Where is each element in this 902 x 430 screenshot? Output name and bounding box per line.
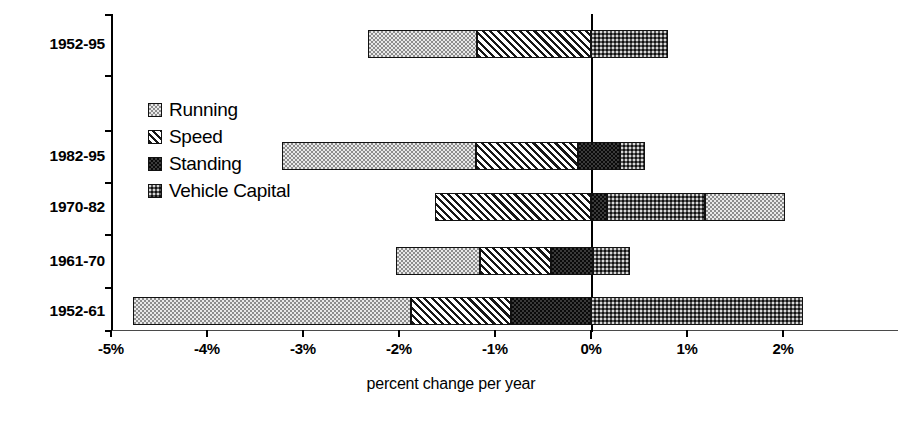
x-tick-label--1pct: -1%	[465, 340, 525, 357]
y-axis-tick	[105, 130, 112, 132]
x-tick-label-1pct: 1%	[657, 340, 717, 357]
legend-item-vehicle-capital[interactable]: Vehicle Capital	[148, 177, 290, 204]
stacked-bar-chart: 1952-951982-951970-821961-701952-61 Runn…	[0, 0, 902, 430]
bar-segment-vehicle-capital-1982-95[interactable]	[620, 142, 645, 170]
legend-swatch-vehicle-capital-icon	[148, 184, 162, 198]
bar-segment-vehicle-capital-1952-61[interactable]	[591, 297, 803, 325]
bar-row-1952-95[interactable]	[0, 30, 902, 58]
legend-swatch-speed-icon	[148, 130, 162, 144]
bar-segment-running-1952-95[interactable]	[368, 30, 476, 58]
x-axis-line	[111, 330, 898, 331]
x-axis-tick	[590, 330, 592, 339]
bar-row-1970-82[interactable]	[0, 193, 902, 221]
legend-label: Vehicle Capital	[169, 181, 290, 200]
bar-segment-speed-1970-82[interactable]	[435, 193, 591, 221]
zero-reference-line	[591, 14, 593, 332]
bar-segment-running-1970-82[interactable]	[705, 193, 785, 221]
x-axis-tick	[686, 330, 688, 337]
y-axis-tick	[105, 234, 112, 236]
bar-segment-standing-1952-61[interactable]	[511, 297, 591, 325]
x-tick-label-2pct: 2%	[753, 340, 813, 357]
legend-swatch-running-icon	[148, 103, 162, 117]
bar-segment-speed-1952-95[interactable]	[477, 30, 591, 58]
bar-segment-speed-1961-70[interactable]	[480, 247, 551, 275]
x-tick-label--4pct: -4%	[177, 340, 237, 357]
bar-segment-standing-1982-95[interactable]	[578, 142, 620, 170]
legend-swatch-standing-icon	[148, 157, 162, 171]
x-tick-label-0pct: 0%	[561, 340, 621, 357]
chart-legend: RunningSpeedStandingVehicle Capital	[148, 96, 290, 204]
bar-segment-vehicle-capital-1952-95[interactable]	[591, 30, 668, 58]
legend-item-speed[interactable]: Speed	[148, 123, 290, 150]
bar-row-1961-70[interactable]	[0, 247, 902, 275]
bar-segment-speed-1952-61[interactable]	[411, 297, 512, 325]
y-axis-tick	[105, 182, 112, 184]
bar-row-1952-61[interactable]	[0, 297, 902, 325]
bar-segment-vehicle-capital-1970-82[interactable]	[607, 193, 705, 221]
x-axis-tick	[782, 330, 784, 337]
bar-segment-running-1961-70[interactable]	[396, 247, 480, 275]
legend-label: Speed	[169, 127, 222, 146]
y-axis-tick	[105, 287, 112, 289]
x-axis-tick	[398, 330, 400, 337]
y-axis-line	[111, 14, 113, 330]
legend-item-standing[interactable]: Standing	[148, 150, 290, 177]
x-axis-tick	[110, 330, 112, 337]
x-axis-tick	[206, 330, 208, 337]
x-axis-tick	[494, 330, 496, 337]
bar-segment-running-1952-61[interactable]	[133, 297, 410, 325]
legend-label: Standing	[169, 154, 242, 173]
legend-item-running[interactable]: Running	[148, 96, 290, 123]
bar-segment-vehicle-capital-1961-70[interactable]	[593, 247, 630, 275]
x-axis-tick	[302, 330, 304, 337]
bar-segment-standing-1961-70[interactable]	[551, 247, 593, 275]
bar-segment-speed-1982-95[interactable]	[476, 142, 578, 170]
bar-segment-running-1982-95[interactable]	[282, 142, 476, 170]
y-axis-tick	[105, 14, 112, 16]
x-tick-label--3pct: -3%	[273, 340, 333, 357]
y-axis-tick	[105, 75, 112, 77]
x-axis-title: percent change per year	[0, 375, 902, 393]
bar-row-1982-95[interactable]	[0, 142, 902, 170]
bar-segment-standing-1970-82[interactable]	[591, 193, 607, 221]
x-tick-label--2pct: -2%	[369, 340, 429, 357]
legend-label: Running	[169, 100, 238, 119]
x-tick-label--5pct: -5%	[81, 340, 141, 357]
